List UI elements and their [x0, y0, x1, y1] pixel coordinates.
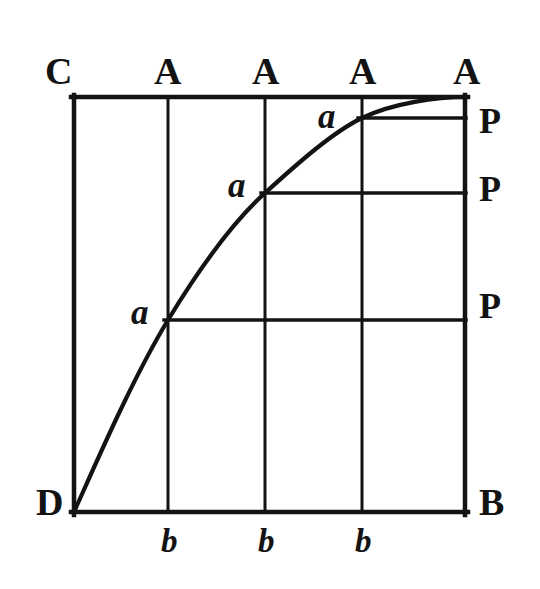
label-bottom-b-2: b [258, 525, 275, 558]
label-top-a-2: A [252, 52, 279, 90]
label-curve-point-a-2: a [228, 168, 246, 203]
label-right-p-2: P [479, 171, 501, 207]
vertical-gridlines-group [168, 97, 362, 512]
label-bottom-b-1: b [161, 525, 178, 558]
label-bottom-b-3: b [355, 525, 372, 558]
label-right-p-1: P [479, 103, 501, 139]
label-right-p-3: P [479, 288, 501, 324]
label-top-c: C [45, 52, 72, 90]
label-top-a-3: A [349, 52, 376, 90]
label-bottom-b-corner: B [479, 483, 504, 521]
label-curve-point-a-3: a [318, 99, 336, 134]
label-top-a-1: A [154, 52, 181, 90]
label-top-a-4: A [453, 52, 480, 90]
label-curve-point-a-1: a [131, 295, 149, 330]
label-bottom-d: D [36, 483, 63, 521]
diminishing-returns-figure: C A A A A D b b b B P P P a a a [0, 0, 540, 589]
